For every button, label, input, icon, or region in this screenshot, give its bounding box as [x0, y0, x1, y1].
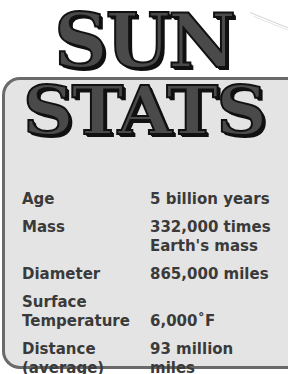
stat-label: Mass: [22, 218, 150, 256]
stat-value: 332,000 times Earth's mass: [150, 218, 282, 256]
stat-value: 5 billion years: [150, 190, 282, 209]
stat-row-age: Age 5 billion years: [22, 190, 282, 209]
stat-row-surface-temperature: Surface Temperature 6,000˚F: [22, 293, 282, 331]
stat-label: Diameter: [22, 265, 150, 284]
stats-table: Age 5 billion years Mass 332,000 times E…: [22, 190, 282, 374]
stat-value: 6,000˚F: [150, 312, 282, 331]
stat-label: Distance (average): [22, 340, 150, 374]
stat-label: Surface Temperature: [22, 293, 150, 331]
title-stats: STATS: [0, 78, 288, 145]
stat-value: 865,000 miles: [150, 265, 282, 284]
stat-row-diameter: Diameter 865,000 miles: [22, 265, 282, 284]
stat-row-distance: Distance (average) 93 million miles from…: [22, 340, 282, 374]
title-sun: SUN: [0, 4, 288, 78]
stat-label: Age: [22, 190, 150, 209]
stat-value: 93 million miles from Earth: [150, 340, 282, 374]
stat-row-mass: Mass 332,000 times Earth's mass: [22, 218, 282, 256]
